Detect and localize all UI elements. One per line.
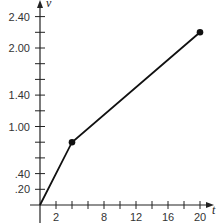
x-axis-label: t xyxy=(212,203,216,217)
x-tick-label: 12 xyxy=(130,211,142,223)
x-tick-label: 8 xyxy=(101,211,107,223)
ticks: 28121620.20.401.001.402.002.40 xyxy=(9,11,207,223)
y-tick-label: .20 xyxy=(15,183,30,195)
y-tick-label: 1.40 xyxy=(9,89,30,101)
data-point xyxy=(69,139,76,146)
y-tick-label: 1.00 xyxy=(9,121,30,133)
y-tick-label: .40 xyxy=(15,168,30,180)
x-tick-label: 16 xyxy=(162,211,174,223)
x-tick-label: 20 xyxy=(194,211,206,223)
line-chart: 28121620.20.401.001.402.002.40 v t xyxy=(0,0,218,223)
y-tick-label: 2.40 xyxy=(9,11,30,23)
data-point xyxy=(197,29,204,36)
y-axis-label: v xyxy=(46,0,52,10)
y-tick-label: 2.00 xyxy=(9,42,30,54)
data-line xyxy=(40,32,200,205)
axes xyxy=(30,0,214,223)
x-tick-label: 2 xyxy=(53,211,59,223)
y-axis-arrow-icon xyxy=(37,0,43,8)
plot-area xyxy=(40,29,203,205)
